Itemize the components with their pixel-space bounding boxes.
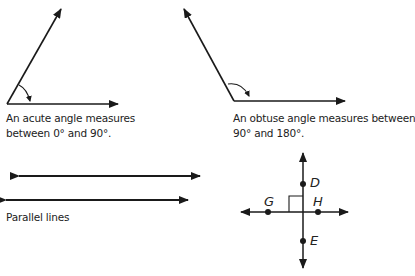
acute-angle [7, 9, 118, 104]
point-label-g: G [264, 194, 274, 209]
acute-arc-arrow-icon [19, 85, 30, 101]
obtuse-ray-upper [184, 9, 234, 101]
point-h [315, 209, 321, 215]
point-d [300, 181, 306, 187]
obtuse-caption-line2: 90° and 180°. [233, 126, 304, 141]
point-label-e: E [310, 233, 318, 248]
obtuse-angle [184, 9, 345, 101]
parallel-lines [6, 176, 200, 200]
point-label-h: H [313, 194, 323, 209]
acute-caption-line2: between 0° and 90°. [6, 126, 111, 141]
perpendicular-lines [241, 153, 348, 268]
obtuse-caption-line1: An obtuse angle measures between [233, 111, 415, 126]
right-angle-marker-icon [289, 196, 303, 212]
point-g [265, 209, 271, 215]
acute-caption-line1: An acute angle measures [6, 111, 135, 126]
point-e [300, 238, 306, 244]
point-label-d: D [310, 175, 320, 190]
acute-ray-upper [7, 9, 61, 104]
parallel-caption: Parallel lines [6, 210, 69, 225]
